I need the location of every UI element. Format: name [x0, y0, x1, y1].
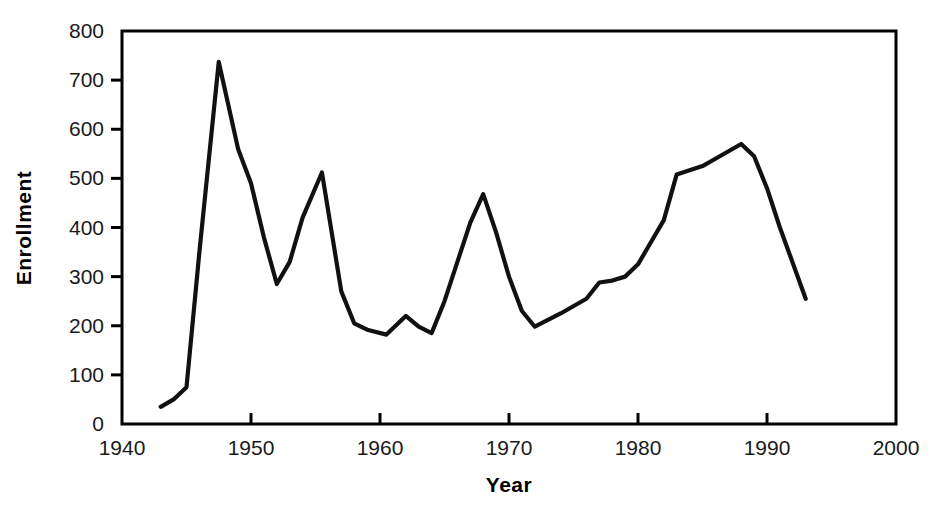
x-axis: 1940195019601970198019902000 — [99, 413, 920, 459]
y-tick-label: 500 — [69, 166, 104, 189]
y-tick-label: 700 — [69, 68, 104, 91]
x-tick-label: 1960 — [357, 436, 404, 459]
data-line-enrollment — [161, 62, 806, 407]
x-tick-label: 2000 — [873, 436, 920, 459]
y-axis-title: Enrollment — [12, 171, 35, 286]
y-tick-label: 100 — [69, 363, 104, 386]
y-tick-label: 800 — [69, 19, 104, 42]
chart-canvas: 0100200300400500600700800 19401950196019… — [0, 0, 938, 515]
y-tick-label: 600 — [69, 117, 104, 140]
enrollment-line-chart: 0100200300400500600700800 19401950196019… — [0, 0, 938, 515]
x-axis-title: Year — [486, 473, 532, 496]
x-tick-label: 1980 — [615, 436, 662, 459]
y-tick-label: 400 — [69, 216, 104, 239]
x-tick-label: 1940 — [99, 436, 146, 459]
x-tick-label: 1970 — [486, 436, 533, 459]
y-tick-label: 0 — [92, 412, 104, 435]
y-tick-label: 300 — [69, 265, 104, 288]
y-tick-label: 200 — [69, 314, 104, 337]
y-axis: 0100200300400500600700800 — [69, 19, 122, 435]
x-tick-label: 1990 — [744, 436, 791, 459]
series-group — [161, 62, 806, 407]
x-tick-label: 1950 — [228, 436, 275, 459]
